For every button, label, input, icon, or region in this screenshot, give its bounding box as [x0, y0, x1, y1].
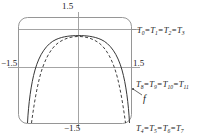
t4-term-1: T5 [149, 123, 157, 133]
t0-term-1: T1 [150, 25, 158, 35]
plot-figure [0, 0, 205, 139]
annotation-t0-t3: T0=T1=T2=T3 [137, 25, 185, 35]
plot-frame [19, 18, 132, 124]
tick-label-left: −1.5 [1, 58, 17, 68]
t0-term-3: T3 [177, 25, 185, 35]
t8-term-3: T11 [179, 79, 189, 89]
t0-term-0: T0 [137, 25, 145, 35]
t4-term-0: T4 [136, 123, 144, 133]
t8-term-0: T8 [136, 79, 144, 89]
tick-label-right: 1.5 [133, 58, 144, 68]
annotation-function-f: f [143, 93, 146, 104]
t8-term-1: T9 [149, 79, 157, 89]
tick-label-bottom: −1.5 [64, 123, 80, 133]
tick-label-top: 1.5 [62, 1, 73, 11]
annotation-t4-t7: T4=T5=T6=T7 [136, 123, 184, 133]
f-leader-dot [132, 88, 134, 90]
t8-term-2: T10 [163, 79, 173, 89]
annotation-t8-t11: T8=T9=T10=T11 [136, 79, 189, 89]
t4-term-3: T7 [176, 123, 184, 133]
